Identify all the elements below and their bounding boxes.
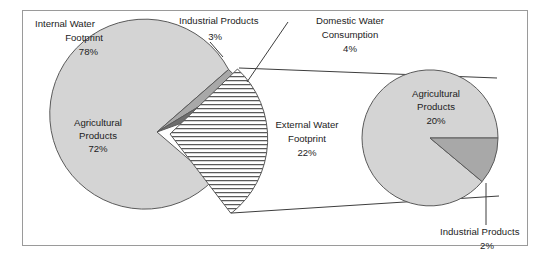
label-domestic-water-consumption-line3: 4% <box>343 43 357 54</box>
label-internal-water-footprint-line2: Footprint <box>65 32 103 43</box>
label-external-water-footprint-line1: External Water <box>275 119 339 130</box>
label-agricultural-products-right-line1: Agricultural <box>412 88 460 99</box>
label-agricultural-products-left-line1: Agricultural <box>74 117 122 128</box>
label-agricultural-products-left-line3: 72% <box>88 143 108 154</box>
label-agricultural-products-right-line2: Products <box>417 101 455 112</box>
label-agricultural-products-left-line2: Products <box>79 130 117 141</box>
label-external-water-footprint-line2: Footprint <box>288 133 326 144</box>
label-industrial-products-right-line2: 2% <box>480 240 494 251</box>
label-industrial-products-left-line2: 3% <box>208 31 222 42</box>
label-internal-water-footprint-line1: Internal Water <box>35 18 96 29</box>
label-external-water-footprint-line3: 22% <box>297 147 317 158</box>
label-domestic-water-consumption-line1: Domestic Water <box>316 15 385 26</box>
label-internal-water-footprint-line3: 78% <box>79 46 99 57</box>
label-agricultural-products-right-line3: 20% <box>426 115 446 126</box>
pie-chart-figure: Internal Water Footprint 78% Agricultura… <box>0 0 551 270</box>
label-industrial-products-left-line1: Industrial Products <box>179 15 259 26</box>
label-domestic-water-consumption-line2: Consumption <box>322 29 379 40</box>
label-industrial-products-right-line1: Industrial Products <box>440 226 520 237</box>
figure-container: Internal Water Footprint 78% Agricultura… <box>0 0 551 270</box>
